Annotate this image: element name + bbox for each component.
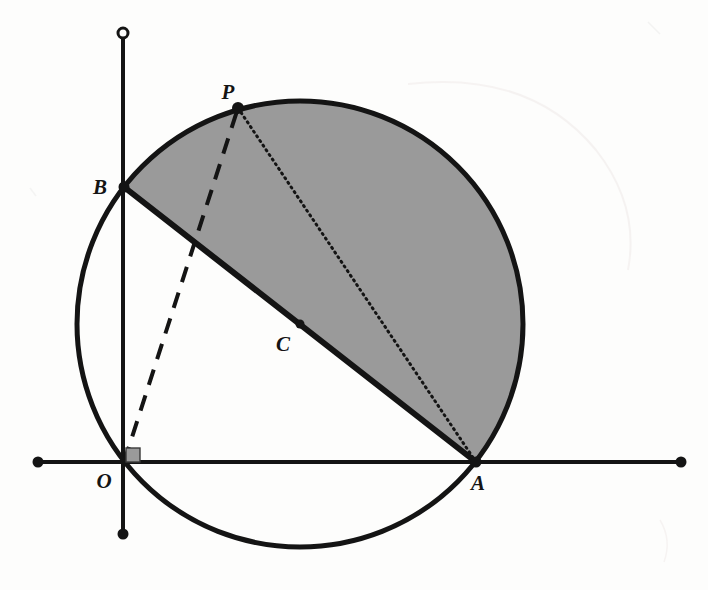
label-C: C (276, 332, 291, 356)
point-marker-A (471, 457, 482, 468)
point-marker-C (296, 320, 305, 329)
geometry-figure: O A B C P (0, 0, 708, 590)
label-P: P (221, 80, 235, 104)
label-A: A (469, 471, 485, 495)
right-angle-marker-icon (126, 448, 140, 462)
point-marker-B (119, 182, 130, 193)
x-right-endpoint-dot (676, 457, 687, 468)
label-B: B (92, 175, 107, 199)
y-top-endpoint-dot (118, 28, 128, 38)
x-left-endpoint-dot (33, 457, 44, 468)
label-O: O (96, 469, 111, 493)
y-bottom-endpoint-dot (118, 529, 129, 540)
geometry-canvas: O A B C P (0, 0, 708, 590)
